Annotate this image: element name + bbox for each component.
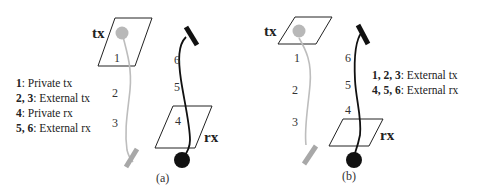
segment-number: 1 <box>294 51 300 65</box>
segment-number: 4 <box>345 103 351 117</box>
segment-number: 6 <box>345 51 351 65</box>
legend-item: 2, 3: External tx <box>16 91 91 106</box>
rx-path <box>355 32 362 153</box>
rx-label: rx <box>380 127 395 143</box>
legend-item: 5, 6: External rx <box>16 121 91 136</box>
tx-reflector-icon <box>304 146 316 164</box>
panel-caption: (b) <box>342 169 356 183</box>
legend-panel-a: 1: Private tx 2, 3: External tx 4: Priva… <box>16 76 91 136</box>
segment-number: 2 <box>292 83 298 97</box>
tx-path <box>122 33 133 162</box>
segment-number: 6 <box>174 53 180 67</box>
rx-path <box>179 37 190 158</box>
legend-item: 1, 2, 3: External tx <box>372 68 458 83</box>
rx-plane <box>329 119 383 146</box>
legend-item: 4, 5, 6: External rx <box>372 83 458 98</box>
legend-panel-b: 1, 2, 3: External tx 4, 5, 6: External r… <box>372 68 458 98</box>
tx-node-icon <box>116 27 129 40</box>
segment-number: 2 <box>112 86 118 100</box>
tx-label: tx <box>92 25 105 41</box>
rx-label: rx <box>204 129 219 145</box>
rx-node-icon <box>346 152 362 168</box>
segment-number: 1 <box>114 51 120 65</box>
segment-number: 5 <box>345 78 351 92</box>
segment-number: 5 <box>174 80 180 94</box>
rx-node-icon <box>174 152 190 168</box>
segment-number: 3 <box>292 115 298 129</box>
rx-reflector-icon <box>186 27 197 45</box>
tx-label: tx <box>264 23 277 39</box>
legend-item: 1: Private tx <box>16 76 91 91</box>
segment-number: 3 <box>112 116 118 130</box>
tx-path <box>299 38 310 145</box>
segment-number: 4 <box>175 114 181 128</box>
panel-caption: (a) <box>156 171 169 185</box>
legend-item: 4: Private rx <box>16 106 91 121</box>
tx-node-icon <box>293 25 306 38</box>
